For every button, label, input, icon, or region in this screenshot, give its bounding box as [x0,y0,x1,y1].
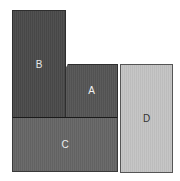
block-b: B [12,10,66,118]
block-d-label: D [143,114,150,124]
block-a: A [65,64,118,118]
block-a-label: A [88,86,95,96]
block-c-label: C [61,140,68,150]
block-d: D [120,64,173,173]
block-c: C [12,117,118,172]
block-b-label: B [36,60,43,70]
